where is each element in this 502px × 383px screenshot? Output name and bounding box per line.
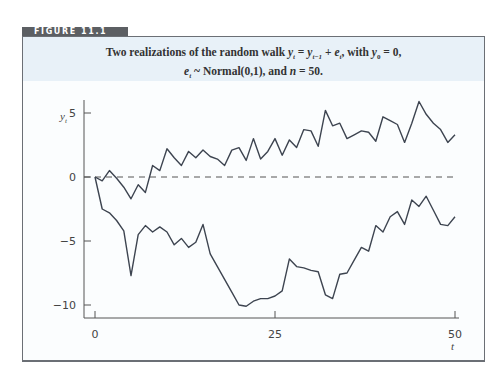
x-tick-label: 25 xyxy=(268,328,282,341)
y-tick-label: −10 xyxy=(53,299,76,312)
x-tick-label: 0 xyxy=(92,328,99,341)
series-lines xyxy=(95,102,455,307)
y-tick-label: −5 xyxy=(60,235,76,248)
series-line-1 xyxy=(95,102,455,199)
series-line-2 xyxy=(95,177,455,306)
x-axis-label: t xyxy=(451,340,455,352)
y-ticks: 50−5−10 xyxy=(53,107,91,312)
y-axis-label: yt xyxy=(59,110,68,125)
line-chart: 50−5−10 02550 yt t xyxy=(0,0,502,383)
y-tick-label: 5 xyxy=(69,107,76,120)
x-ticks: 02550 xyxy=(92,311,463,341)
y-tick-label: 0 xyxy=(69,171,76,184)
